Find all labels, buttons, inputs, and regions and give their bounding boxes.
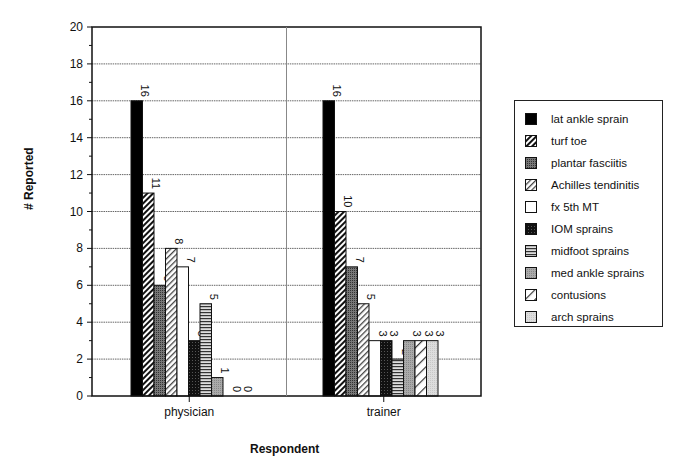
legend-item: turf toe <box>525 132 587 150</box>
bar <box>212 378 224 396</box>
bar <box>154 285 166 396</box>
bar-group-trainer: 161075332333 <box>323 85 446 396</box>
bar <box>189 341 201 396</box>
bar-value-label: 10 <box>342 195 354 207</box>
legend-swatch-icon <box>525 179 537 191</box>
bar-value-label: 1 <box>219 367 231 373</box>
legend-item: plantar fasciitis <box>525 154 627 172</box>
legend-label: contusions <box>551 289 606 301</box>
y-tick-label: 20 <box>70 20 84 34</box>
bar-groups: 161168735100161075332333 <box>131 85 446 396</box>
y-tick-label: 12 <box>70 168 84 182</box>
legend-item: contusions <box>525 286 606 304</box>
bar <box>381 341 393 396</box>
legend-swatch-icon <box>525 289 537 301</box>
legend-item: lat ankle sprain <box>525 110 628 128</box>
x-tick-label: physician <box>164 405 214 419</box>
legend-swatch-icon <box>525 113 537 125</box>
bar-value-label: 7 <box>185 257 197 263</box>
bar-value-label: 3 <box>411 331 423 337</box>
legend-swatch-icon <box>525 311 537 323</box>
legend-label: med ankle sprains <box>551 267 644 279</box>
y-tick-label: 14 <box>70 131 84 145</box>
legend-swatch-icon <box>525 223 537 235</box>
bar <box>200 304 212 396</box>
bar <box>346 267 358 396</box>
y-tick-label: 4 <box>76 315 83 329</box>
bar-group-physician: 161168735100 <box>131 85 254 396</box>
bar-value-label: 5 <box>365 294 377 300</box>
bar <box>358 304 370 396</box>
bar <box>392 359 404 396</box>
bar <box>323 101 335 396</box>
y-tick-label: 18 <box>70 57 84 71</box>
y-tick-label: 2 <box>76 352 83 366</box>
legend-label: turf toe <box>551 135 587 147</box>
legend-item: midfoot sprains <box>525 242 629 260</box>
bar-value-label: 0 <box>242 386 254 392</box>
legend-label: IOM sprains <box>551 223 613 235</box>
bar <box>404 341 416 396</box>
y-tick-label: 6 <box>76 278 83 292</box>
legend-swatch-icon <box>525 157 537 169</box>
legend-item: IOM sprains <box>525 220 613 238</box>
bar <box>166 248 178 396</box>
legend-swatch-icon <box>525 267 537 279</box>
legend-label: midfoot sprains <box>551 245 629 257</box>
legend-label: lat ankle sprain <box>551 113 628 125</box>
legend-item: med ankle sprains <box>525 264 644 282</box>
legend-label: Achilles tendinitis <box>551 179 639 191</box>
legend-label: arch sprains <box>551 311 614 323</box>
bar <box>177 267 189 396</box>
x-axis-title: Respondent <box>250 442 319 456</box>
bar-value-label: 11 <box>150 178 162 189</box>
y-tick-label: 10 <box>70 205 84 219</box>
legend-swatch-icon <box>525 201 537 213</box>
bar-value-label: 3 <box>434 331 446 337</box>
bar <box>369 341 381 396</box>
legend-item: Achilles tendinitis <box>525 176 639 194</box>
legend-label: plantar fasciitis <box>551 157 627 169</box>
bar <box>427 341 439 396</box>
bar <box>143 193 155 396</box>
legend-item: fx 5th MT <box>525 198 599 216</box>
bar-value-label: 3 <box>388 331 400 337</box>
x-tick-label: trainer <box>367 405 401 419</box>
y-axis-title: # Reported <box>22 147 36 210</box>
bar-value-label: 16 <box>139 85 151 97</box>
y-tick-label: 16 <box>70 94 84 108</box>
y-tick-label: 0 <box>76 389 83 403</box>
bar-value-label: 3 <box>423 331 435 337</box>
bar <box>335 212 347 397</box>
legend-item: arch sprains <box>525 308 614 326</box>
bar-value-label: 3 <box>377 331 389 337</box>
bar-value-label: 16 <box>331 85 343 97</box>
bar <box>415 341 427 396</box>
legend: lat ankle sprainturf toeplantar fasciiti… <box>514 100 663 327</box>
bar-value-label: 7 <box>354 257 366 263</box>
y-tick-label: 8 <box>76 241 83 255</box>
legend-swatch-icon <box>525 245 537 257</box>
legend-label: fx 5th MT <box>551 201 599 213</box>
bar-value-label: 5 <box>208 294 220 300</box>
bar-value-label: 0 <box>231 386 243 392</box>
bar <box>131 101 143 396</box>
bar-value-label: 8 <box>173 238 185 244</box>
legend-swatch-icon <box>525 135 537 147</box>
